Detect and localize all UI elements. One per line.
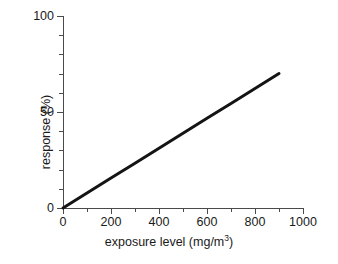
- x-tick-major: [111, 208, 112, 214]
- x-tick-minor: [279, 208, 280, 212]
- x-tick-major: [159, 208, 160, 214]
- x-tick-major: [303, 208, 304, 214]
- data-series-line: [63, 16, 303, 208]
- plot-area: 050100 02004006008001000: [63, 16, 303, 208]
- x-tick-major: [207, 208, 208, 214]
- x-axis-title-tail: ): [229, 235, 233, 249]
- x-tick-label: 200: [101, 216, 122, 229]
- x-tick-label: 400: [149, 216, 170, 229]
- x-tick-major: [255, 208, 256, 214]
- x-axis-title-main: exposure level (mg/m: [105, 235, 225, 249]
- y-tick-label: 100: [33, 10, 54, 23]
- x-tick-minor: [231, 208, 232, 212]
- x-tick-label: 1000: [289, 216, 317, 229]
- x-tick-minor: [183, 208, 184, 212]
- x-tick-minor: [135, 208, 136, 212]
- x-tick-label: 0: [60, 216, 67, 229]
- x-tick-label: 600: [197, 216, 218, 229]
- x-axis-title: exposure level (mg/m3): [0, 236, 338, 249]
- y-tick-label: 0: [47, 202, 54, 215]
- y-axis-title: response (%): [40, 95, 53, 169]
- chart-figure: 050100 02004006008001000 response (%) ex…: [0, 0, 338, 264]
- dose-response-polyline: [63, 74, 279, 208]
- x-tick-label: 800: [245, 216, 266, 229]
- x-tick-minor: [87, 208, 88, 212]
